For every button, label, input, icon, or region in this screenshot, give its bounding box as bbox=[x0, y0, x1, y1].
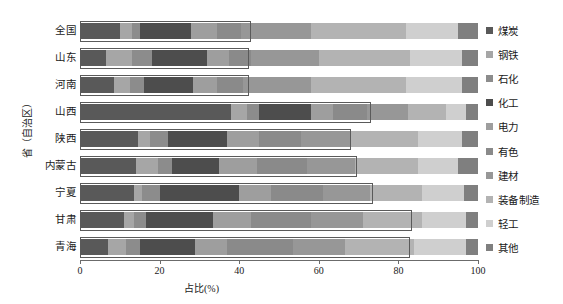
legend-swatch-icon bbox=[486, 51, 493, 58]
bar-segment bbox=[446, 104, 466, 120]
bar-segment bbox=[219, 158, 257, 174]
bar-segment bbox=[229, 50, 251, 66]
legend: 煤炭钢铁石化化工电力有色建材装备制造轻工其他 bbox=[486, 18, 563, 260]
bar-segment bbox=[355, 158, 419, 174]
legend-swatch-icon bbox=[486, 220, 493, 227]
bar-segment bbox=[418, 158, 458, 174]
legend-item: 石化 bbox=[486, 66, 563, 90]
bar-segment bbox=[213, 212, 251, 228]
y-axis-tick-label: 内蒙古 bbox=[4, 160, 76, 172]
bar-segment bbox=[80, 212, 124, 228]
legend-label: 轻工 bbox=[498, 216, 519, 231]
bar-segment bbox=[231, 104, 247, 120]
bar-segment bbox=[146, 212, 214, 228]
stacked-bar bbox=[80, 50, 478, 66]
legend-label: 化工 bbox=[498, 95, 519, 110]
bar-segment bbox=[136, 158, 158, 174]
bar-segment bbox=[466, 212, 478, 228]
bar-segment bbox=[406, 77, 462, 93]
bar-segment bbox=[466, 104, 478, 120]
bar-segment bbox=[160, 185, 240, 201]
bar-segment bbox=[217, 23, 241, 39]
bar-segment bbox=[80, 131, 138, 147]
stacked-bar bbox=[80, 104, 478, 120]
bar-segment bbox=[142, 185, 160, 201]
legend-swatch-icon bbox=[486, 75, 493, 82]
bar-segment bbox=[370, 185, 422, 201]
bar-row bbox=[80, 23, 478, 39]
bar-segment bbox=[227, 131, 259, 147]
bar-segment bbox=[247, 104, 259, 120]
bar-segment bbox=[311, 77, 407, 93]
bar-segment bbox=[168, 131, 228, 147]
legend-label: 煤炭 bbox=[498, 23, 519, 38]
stacked-bar bbox=[80, 23, 478, 39]
x-axis-line bbox=[80, 260, 479, 261]
y-axis-tick-label: 甘肃 bbox=[4, 214, 76, 226]
stacked-bar bbox=[80, 185, 478, 201]
bar-segment bbox=[80, 158, 136, 174]
bar-row bbox=[80, 77, 478, 93]
bar-segment bbox=[152, 50, 208, 66]
bar-segment bbox=[251, 212, 311, 228]
bar-segment bbox=[466, 239, 478, 255]
bar-segment bbox=[333, 104, 367, 120]
legend-label: 建材 bbox=[498, 168, 519, 183]
bar-segment bbox=[114, 77, 130, 93]
bar-segment bbox=[351, 131, 419, 147]
bar-segment bbox=[464, 185, 478, 201]
legend-swatch-icon bbox=[486, 99, 493, 106]
x-axis-tick-label: 20 bbox=[140, 265, 180, 276]
bar-segment bbox=[80, 50, 106, 66]
x-axis-tick-mark bbox=[80, 260, 81, 264]
bar-segment bbox=[257, 158, 307, 174]
legend-swatch-icon bbox=[486, 244, 493, 251]
x-axis-tick-mark bbox=[239, 260, 240, 264]
y-axis-tick-label: 陕西 bbox=[4, 133, 76, 145]
bar-segment bbox=[134, 212, 146, 228]
legend-label: 装备制造 bbox=[498, 192, 540, 207]
bar-segment bbox=[301, 131, 351, 147]
legend-swatch-icon bbox=[486, 27, 493, 34]
bar-segment bbox=[422, 185, 464, 201]
bar-row bbox=[80, 158, 478, 174]
bar-segment bbox=[243, 77, 311, 93]
legend-label: 其他 bbox=[498, 240, 519, 255]
legend-item: 轻工 bbox=[486, 212, 563, 236]
bar-segment bbox=[132, 23, 140, 39]
y-axis-tick-label: 山东 bbox=[4, 52, 76, 64]
bar-segment bbox=[422, 212, 466, 228]
legend-item: 有色 bbox=[486, 139, 563, 163]
bar-segment bbox=[462, 131, 478, 147]
bar-segment bbox=[140, 23, 192, 39]
bar-segment bbox=[191, 23, 217, 39]
x-axis-tick-mark bbox=[160, 260, 161, 264]
bar-segment bbox=[193, 77, 217, 93]
bar-segment bbox=[227, 239, 293, 255]
stacked-bar bbox=[80, 212, 478, 228]
bar-segment bbox=[462, 50, 478, 66]
bar-segment bbox=[108, 239, 126, 255]
bar-segment bbox=[418, 131, 462, 147]
bar-segment bbox=[134, 185, 142, 201]
bar-segment bbox=[239, 185, 271, 201]
stacked-bar bbox=[80, 239, 478, 255]
legend-swatch-icon bbox=[486, 172, 493, 179]
bar-segment bbox=[207, 50, 229, 66]
bar-segment bbox=[345, 239, 415, 255]
bar-segment bbox=[132, 50, 152, 66]
y-axis-tick-labels: 全国山东河南山西陕西内蒙古宁夏甘肃青海 bbox=[0, 0, 76, 304]
bar-segment bbox=[150, 131, 168, 147]
x-axis-tick-mark bbox=[478, 260, 479, 264]
y-axis-tick-label: 青海 bbox=[4, 241, 76, 253]
bar-segment bbox=[195, 239, 227, 255]
x-axis-tick-label: 80 bbox=[378, 265, 418, 276]
x-axis-tick-label: 100 bbox=[458, 265, 498, 276]
bar-row bbox=[80, 239, 478, 255]
bar-segment bbox=[124, 212, 134, 228]
bar-row bbox=[80, 131, 478, 147]
x-axis-tick-label: 0 bbox=[60, 265, 100, 276]
x-axis-title: 占比(%) bbox=[0, 280, 563, 295]
y-axis-tick-label: 宁夏 bbox=[4, 187, 76, 199]
bar-segment bbox=[80, 77, 114, 93]
